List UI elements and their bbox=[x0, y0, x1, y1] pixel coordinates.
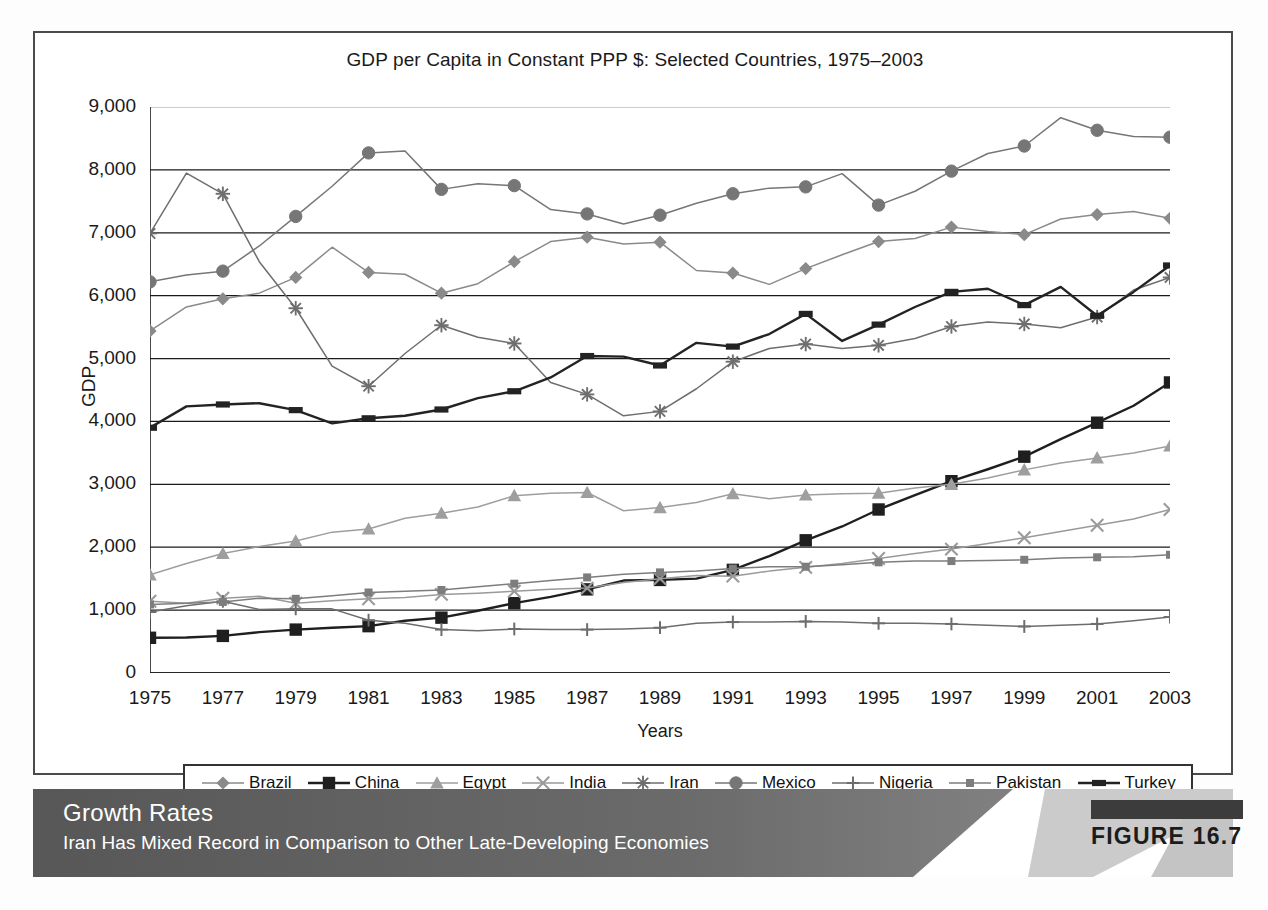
data-point-marker bbox=[150, 568, 157, 580]
data-point-marker bbox=[1164, 611, 1170, 624]
banner-subtitle: Iran Has Mixed Record in Comparison to O… bbox=[63, 832, 709, 854]
data-point-marker bbox=[507, 388, 521, 394]
data-point-marker bbox=[580, 387, 594, 401]
data-point-marker bbox=[726, 355, 740, 369]
data-point-marker bbox=[944, 289, 958, 295]
data-point-marker bbox=[726, 616, 739, 629]
data-point-marker bbox=[1163, 262, 1170, 268]
data-point-marker bbox=[289, 602, 302, 615]
x-axis-tick-label: 1981 bbox=[333, 687, 405, 709]
data-point-marker bbox=[945, 221, 958, 234]
y-axis-tick-label: 3,000 bbox=[50, 472, 136, 494]
series-mexico bbox=[150, 118, 1170, 288]
data-point-marker bbox=[435, 287, 448, 300]
data-point-marker bbox=[150, 425, 157, 431]
data-point-marker bbox=[217, 630, 229, 642]
data-point-marker bbox=[1164, 376, 1170, 388]
data-point-marker bbox=[435, 623, 448, 636]
data-point-marker bbox=[730, 777, 742, 789]
series-line bbox=[150, 118, 1170, 282]
data-point-marker bbox=[219, 598, 227, 606]
data-point-marker bbox=[362, 266, 375, 279]
x-axis-tick-label: 1979 bbox=[260, 687, 332, 709]
data-point-marker bbox=[1164, 503, 1170, 515]
y-axis-tick-label: 4,000 bbox=[50, 409, 136, 431]
x-axis-tick-label: 1997 bbox=[915, 687, 987, 709]
data-point-marker bbox=[1164, 131, 1170, 143]
figure-badge-bar bbox=[1091, 800, 1243, 819]
data-point-marker bbox=[1017, 317, 1031, 331]
series-line bbox=[150, 265, 1170, 427]
data-point-marker bbox=[871, 338, 885, 352]
data-point-marker bbox=[653, 236, 666, 249]
chart-title: GDP per Capita in Constant PPP $: Select… bbox=[35, 49, 1235, 71]
x-axis-title: Years bbox=[150, 721, 1170, 742]
data-point-marker bbox=[216, 292, 229, 305]
data-point-marker bbox=[323, 777, 335, 789]
data-point-marker bbox=[508, 255, 521, 268]
data-point-marker bbox=[507, 336, 521, 350]
data-point-marker bbox=[799, 337, 813, 351]
y-axis-tick-label: 5,000 bbox=[50, 347, 136, 369]
data-point-marker bbox=[1018, 228, 1031, 241]
data-point-marker bbox=[434, 406, 448, 412]
x-axis-tick-label: 2001 bbox=[1061, 687, 1133, 709]
x-axis-tick-label: 1989 bbox=[624, 687, 696, 709]
x-axis-tick-label: 1975 bbox=[114, 687, 186, 709]
data-point-marker bbox=[872, 321, 886, 327]
data-point-marker bbox=[289, 301, 303, 315]
data-point-marker bbox=[289, 407, 303, 413]
y-axis-title: GDP bbox=[78, 366, 100, 407]
data-point-marker bbox=[802, 563, 810, 571]
data-point-marker bbox=[361, 379, 375, 393]
data-point-marker bbox=[654, 621, 667, 634]
figure-badge: FIGURE 16.7 bbox=[1091, 800, 1243, 850]
data-point-marker bbox=[1017, 302, 1031, 308]
data-point-marker bbox=[292, 595, 300, 603]
data-point-marker bbox=[966, 779, 974, 787]
data-point-marker bbox=[1093, 553, 1101, 561]
data-point-marker bbox=[656, 568, 664, 576]
x-axis-tick-label: 1977 bbox=[187, 687, 259, 709]
data-point-marker bbox=[217, 265, 229, 277]
data-point-marker bbox=[508, 597, 520, 609]
data-point-marker bbox=[654, 209, 666, 221]
x-axis-tick-label: 1991 bbox=[697, 687, 769, 709]
data-point-marker bbox=[945, 618, 958, 631]
data-point-marker bbox=[150, 324, 157, 337]
data-point-marker bbox=[365, 589, 373, 597]
series-line bbox=[150, 509, 1170, 603]
y-axis-tick-label: 6,000 bbox=[50, 284, 136, 306]
data-point-marker bbox=[583, 573, 591, 581]
data-point-marker bbox=[872, 503, 884, 515]
data-point-marker bbox=[872, 199, 884, 211]
data-point-marker bbox=[872, 235, 885, 248]
x-axis-tick-label: 1999 bbox=[988, 687, 1060, 709]
data-point-marker bbox=[944, 319, 958, 333]
y-axis-tick-label: 1,000 bbox=[50, 598, 136, 620]
data-point-marker bbox=[945, 165, 957, 177]
x-axis-tick-label: 1985 bbox=[478, 687, 550, 709]
data-point-marker bbox=[1163, 439, 1170, 451]
data-point-marker bbox=[653, 362, 667, 368]
data-point-marker bbox=[1092, 780, 1106, 786]
plot-area: GDP Years 01,0002,0003,0004,0005,0006,00… bbox=[150, 107, 1170, 673]
x-axis-tick-label: 1983 bbox=[405, 687, 477, 709]
x-axis-tick-label: 2003 bbox=[1134, 687, 1206, 709]
data-point-marker bbox=[1018, 140, 1030, 152]
data-point-marker bbox=[435, 183, 447, 195]
data-point-marker bbox=[1163, 212, 1170, 225]
data-point-marker bbox=[799, 615, 812, 628]
series-brazil bbox=[150, 208, 1170, 338]
data-point-marker bbox=[800, 181, 812, 193]
data-point-marker bbox=[653, 404, 667, 418]
data-point-marker bbox=[1091, 618, 1104, 631]
data-point-marker bbox=[434, 318, 448, 332]
data-point-marker bbox=[799, 262, 812, 275]
y-axis-tick-label: 2,000 bbox=[50, 535, 136, 557]
series-line bbox=[150, 211, 1170, 330]
data-point-marker bbox=[581, 208, 593, 220]
figure-badge-label: FIGURE 16.7 bbox=[1091, 823, 1243, 850]
data-point-marker bbox=[872, 617, 885, 630]
data-point-marker bbox=[362, 147, 374, 159]
